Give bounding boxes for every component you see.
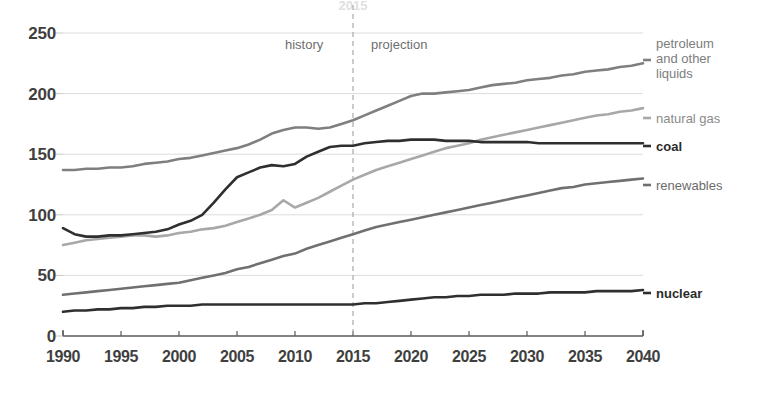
- y-tick-50: 50: [8, 266, 56, 286]
- chart-container: 250 200 150 100 50 0 1990 1995 2000 2005…: [0, 0, 763, 398]
- y-tick-0: 0: [8, 327, 56, 347]
- chart-plot-area: [0, 0, 763, 398]
- x-tick-1995: 1995: [91, 348, 151, 366]
- x-tick-2020: 2020: [381, 348, 441, 366]
- series-label-petroleum-line3: liquids: [656, 66, 761, 81]
- x-tick-2040: 2040: [613, 348, 673, 366]
- x-tick-2015: 2015: [323, 348, 383, 366]
- y-tick-250: 250: [8, 24, 56, 44]
- series-label-coal: coal: [656, 139, 761, 154]
- series-label-natural-gas: natural gas: [656, 111, 761, 126]
- x-tick-2030: 2030: [497, 348, 557, 366]
- projection-label: projection: [371, 37, 427, 52]
- y-tick-100: 100: [8, 206, 56, 226]
- series-label-petroleum-line2: and other: [656, 51, 761, 66]
- y-tick-150: 150: [8, 145, 56, 165]
- series-label-petroleum: petroleum and other liquids: [656, 36, 761, 81]
- divider-year-label: 2015: [323, 0, 383, 13]
- x-tick-2010: 2010: [265, 348, 325, 366]
- series-label-nuclear: nuclear: [656, 286, 761, 301]
- series-label-renewables: renewables: [656, 178, 761, 193]
- y-tick-200: 200: [8, 85, 56, 105]
- x-tick-2035: 2035: [555, 348, 615, 366]
- history-label: history: [285, 37, 323, 52]
- x-tick-2025: 2025: [439, 348, 499, 366]
- series-label-petroleum-line1: petroleum: [656, 36, 761, 51]
- x-tick-2005: 2005: [207, 348, 267, 366]
- x-tick-1990: 1990: [33, 348, 93, 366]
- x-tick-2000: 2000: [149, 348, 209, 366]
